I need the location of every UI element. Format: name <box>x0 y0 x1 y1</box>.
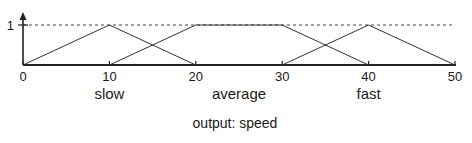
set-label-average: average <box>212 85 266 102</box>
series-group <box>23 25 455 65</box>
set-label-slow: slow <box>94 85 124 102</box>
set-labels: slowaveragefast <box>94 85 381 102</box>
y-tick-label: 1 <box>7 18 14 33</box>
axes <box>20 12 457 65</box>
x-tick-label: 10 <box>102 69 116 84</box>
y-axis-arrow-icon <box>20 12 27 20</box>
set-label-fast: fast <box>357 85 382 102</box>
chart-title: output: speed <box>193 115 278 131</box>
x-tick-label: 30 <box>275 69 289 84</box>
series-fast <box>282 25 455 65</box>
membership-function-chart: 01020304050 1 slowaveragefast output: sp… <box>0 0 472 143</box>
x-tick-label: 40 <box>361 69 375 84</box>
x-tick-label: 50 <box>448 69 462 84</box>
y-ticks: 1 <box>7 18 28 33</box>
series-slow <box>23 25 196 65</box>
x-tick-label: 20 <box>189 69 203 84</box>
x-tick-label: 0 <box>19 69 26 84</box>
series-average <box>109 25 368 65</box>
